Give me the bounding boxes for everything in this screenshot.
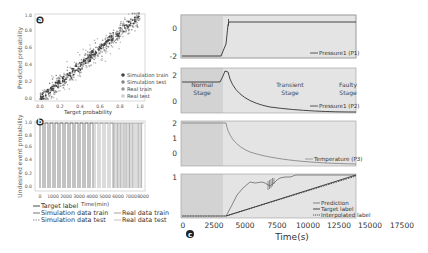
panel-c-label: c [188, 231, 192, 239]
ytick: 0.2 [25, 79, 32, 84]
panel-b-yticks: 0.0 0.2 0.4 0.6 0.8 1.0 [25, 120, 32, 189]
legend-item: Real test [127, 93, 150, 99]
ytick: 0.0 [25, 96, 32, 101]
xtick: 0 [39, 194, 42, 199]
xtick: 1.0 [136, 104, 143, 109]
xtick: 12500 [327, 221, 351, 230]
ytick: 0 [172, 97, 177, 106]
ytick: 0.0 [25, 184, 32, 189]
legend-item: Temperature (P3) [313, 156, 363, 163]
panel-a-xlabel: Target probability [63, 109, 113, 116]
xtick: 0.0 [36, 104, 43, 109]
panel-a-label: a [38, 16, 43, 24]
xtick: 15000 [358, 221, 382, 230]
xtick: 0.8 [116, 104, 123, 109]
xtick: 8000 [137, 194, 149, 199]
panel-a-ylabel: Predicted probability [16, 27, 24, 90]
panel-b-label: b [37, 118, 42, 126]
ytick: -2 [170, 52, 178, 61]
xtick: 2500 [204, 221, 223, 230]
xtick: 3000 [73, 194, 85, 199]
ytick: 0.2 [25, 171, 32, 176]
ytick: 0.8 [25, 133, 32, 138]
panel-b-xticks: 0 1000 2000 3000 4000 5000 6000 7000 800… [39, 194, 149, 199]
ytick: 2 [172, 119, 177, 128]
xtick: 1000 [47, 194, 59, 199]
panel-a: a 0.0 0.2 0.4 0.6 0.8 1.0 0.0 0.2 0.4 0.… [16, 13, 168, 117]
ytick: 1 [172, 134, 177, 143]
panel-b-xlabel: Time(min) [80, 201, 109, 207]
legend-item: Pressure1 (P2) [319, 103, 360, 109]
ytick: 2 [172, 71, 177, 80]
ytick: 0.8 [25, 28, 32, 33]
xtick: 5000 [99, 194, 111, 199]
xtick: 7000 [125, 194, 137, 199]
xtick: 6000 [112, 194, 124, 199]
ytick: 1 [172, 173, 177, 182]
stage-label-normal: Stage [193, 89, 211, 97]
legend-item: Real train [127, 86, 152, 92]
legend-item: Simulation train [127, 72, 168, 78]
stage-label-transient: Stage [281, 89, 299, 97]
stage-label-normal: Normal [191, 81, 213, 88]
ytick: 0.6 [25, 144, 32, 149]
ytick: 1.0 [25, 13, 32, 18]
xtick: 7500 [267, 221, 286, 230]
xtick: 4000 [86, 194, 98, 199]
xtick: 0.2 [56, 104, 63, 109]
xtick: 17500 [390, 221, 414, 230]
legend-item: Simulation test [127, 79, 166, 85]
panel-b-ylabel: Undesired event probability [16, 114, 24, 198]
ytick: 0.6 [25, 45, 32, 50]
figure-canvas: a 0.0 0.2 0.4 0.6 0.8 1.0 0.0 0.2 0.4 0.… [0, 0, 428, 253]
legend-item: Real data test [122, 216, 167, 224]
ytick: 0 [172, 149, 177, 158]
panel-c: 0 -2 Pressure1 (P1) 2 0 Normal Stage Tra… [170, 15, 415, 242]
panel-c-xticks: 0 2500 5000 7500 10000 12500 15000 17500 [181, 221, 415, 230]
legend-item: Pressure1 (P1) [319, 50, 360, 56]
ytick: 0 [172, 24, 177, 33]
ytick: 1.0 [25, 120, 32, 125]
panel-c-subplot-prediction: 1 Prediction Target label Interpolated l… [172, 173, 371, 219]
xtick: 5000 [235, 221, 254, 230]
ytick: 0.4 [25, 157, 32, 162]
stage-label-faulty: Stage [339, 89, 357, 97]
panel-b: b 0.0 0.2 0.4 0.6 0.8 1.0 0 1000 2000 30… [16, 114, 169, 224]
panel-c-xlabel: Time(s) [274, 232, 309, 242]
panel-c-subplot-p2: 2 0 Normal Stage Transient Stage Faulty … [172, 68, 359, 113]
panel-c-subplot-p1: 0 -2 Pressure1 (P1) [170, 15, 360, 61]
stage-label-faulty: Faulty [339, 81, 357, 89]
panel-a-yticks: 0.0 0.2 0.4 0.6 0.8 1.0 [25, 13, 32, 101]
legend-item: Simulation data test [41, 216, 106, 224]
xtick: 2000 [60, 194, 72, 199]
legend-item: Interpolated label [321, 212, 371, 219]
panel-a-legend: Simulation train Simulation test Real tr… [121, 72, 168, 99]
ytick: 0.4 [25, 62, 32, 67]
xtick: 0 [181, 221, 186, 230]
xtick: 10000 [296, 221, 320, 230]
panel-c-subplot-p3: 2 1 0 Temperature (P3) [172, 119, 362, 166]
stage-label-transient: Transient [275, 81, 304, 88]
